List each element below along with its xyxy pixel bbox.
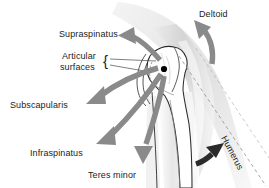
anatomy-illustration [0, 0, 269, 188]
label-infraspinatus: Infraspinatus [30, 148, 83, 159]
label-articular-surfaces-line2: surfaces [60, 62, 95, 73]
label-articular-surfaces-line1: Articular [62, 51, 96, 62]
label-subscapularis: Subscapularis [10, 100, 68, 111]
label-teres-minor: Teres minor [88, 170, 136, 181]
label-deltoid: Deltoid [199, 9, 228, 20]
shoulder-anatomy-figure: Deltoid Supraspinatus Articular surfaces… [0, 0, 269, 188]
articular-surfaces-brace: { [103, 53, 108, 68]
center-of-rotation-dot [161, 66, 167, 72]
label-supraspinatus: Supraspinatus [59, 29, 118, 40]
